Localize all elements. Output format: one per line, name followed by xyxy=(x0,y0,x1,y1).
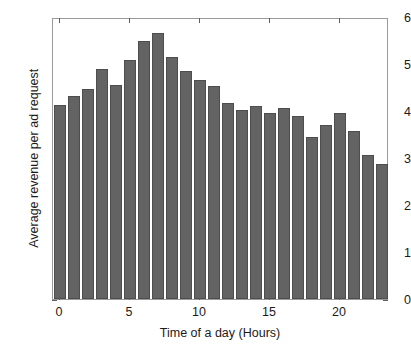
bar xyxy=(348,131,359,299)
y-axis-label: Average revenue per ad request xyxy=(28,8,41,308)
bar xyxy=(208,86,219,299)
bar xyxy=(376,164,387,299)
bar xyxy=(54,105,65,299)
bar xyxy=(264,113,275,299)
bar xyxy=(222,103,233,299)
x-axis-tick-mark-top xyxy=(199,18,200,23)
bar xyxy=(138,41,149,299)
x-axis-tick-mark xyxy=(269,295,270,300)
x-axis-tick-mark xyxy=(339,295,340,300)
bar xyxy=(194,80,205,299)
x-axis-label: Time of a day (Hours) xyxy=(52,327,388,340)
bar xyxy=(124,60,135,299)
x-axis-tick-label: 10 xyxy=(184,306,214,319)
y-axis-tick-mark xyxy=(52,300,57,301)
x-axis-tick-label: 15 xyxy=(254,306,284,319)
x-axis-tick-mark xyxy=(59,295,60,300)
x-axis-tick-mark xyxy=(199,295,200,300)
x-axis-tick-label: 0 xyxy=(44,306,74,319)
bar xyxy=(236,110,247,299)
bar xyxy=(292,116,303,299)
bar xyxy=(166,57,177,299)
bar xyxy=(334,113,345,299)
bar xyxy=(110,85,121,299)
bar xyxy=(68,96,79,299)
bar xyxy=(82,89,93,299)
bar xyxy=(362,155,373,299)
x-axis-tick-label: 5 xyxy=(114,306,144,319)
bar xyxy=(306,137,317,299)
x-axis-tick-mark-top xyxy=(129,18,130,23)
bar xyxy=(250,106,261,299)
x-axis-tick-mark xyxy=(129,295,130,300)
bar xyxy=(152,33,163,299)
plot-area xyxy=(52,18,388,300)
bar-chart-figure: Average revenue per ad request 0123456 0… xyxy=(0,0,411,358)
bar xyxy=(96,69,107,299)
bar xyxy=(278,108,289,299)
bar xyxy=(180,71,191,299)
x-axis-tick-label: 20 xyxy=(324,306,354,319)
x-axis-tick-mark-top xyxy=(269,18,270,23)
x-axis-tick-mark-top xyxy=(59,18,60,23)
bar xyxy=(320,125,331,299)
x-axis-tick-mark-top xyxy=(339,18,340,23)
bar-series xyxy=(53,19,387,299)
